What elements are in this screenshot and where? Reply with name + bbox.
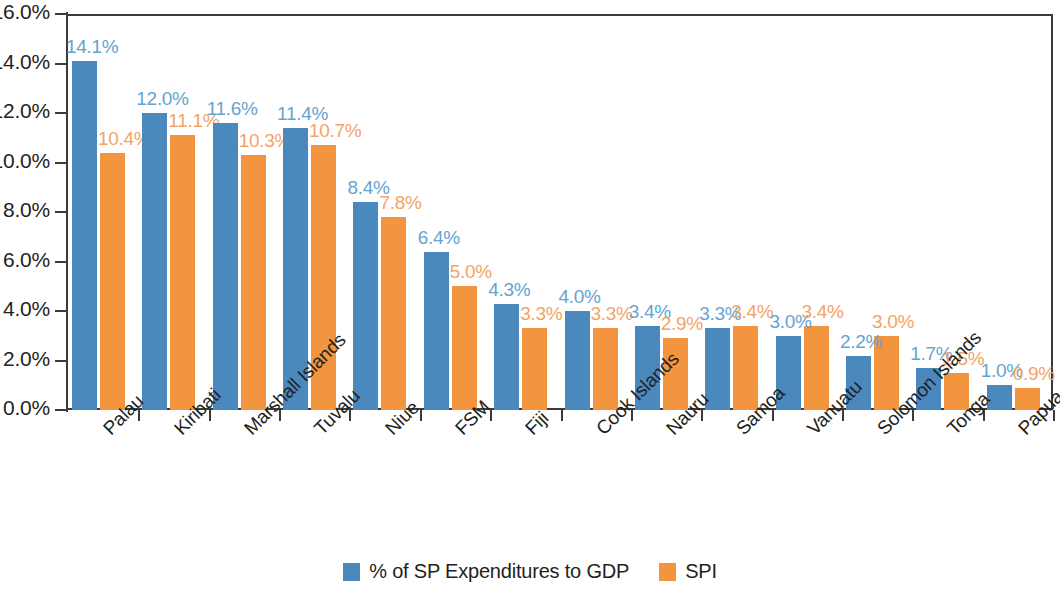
y-axis-tick-mark [55,310,66,312]
chart-legend: % of SP Expenditures to GDPSPI [0,560,1060,583]
data-label-sp-expenditures: 11.6% [207,98,258,120]
data-label-spi: 3.3% [520,303,562,325]
bar-sp-expenditures[interactable] [353,202,378,410]
x-axis-category-label: Samoa [732,424,748,440]
x-axis-category-label: Kiribati [170,424,186,440]
y-axis-tick-mark [55,162,66,164]
bar-spi[interactable] [804,326,829,410]
bar-sp-expenditures[interactable] [142,113,167,410]
bar-spi[interactable] [170,135,195,410]
data-label-sp-expenditures: 2.2% [840,331,882,353]
x-axis-category-label: Solomon Islands [873,424,889,440]
legend-item[interactable]: % of SP Expenditures to GDP [343,560,629,583]
data-label-spi: 5.0% [450,261,492,283]
bar-group: 11.6%10.3% [209,14,279,410]
data-label-spi: 3.4% [731,301,773,323]
x-axis-category-label: FSM [451,424,467,440]
legend-label: % of SP Expenditures to GDP [369,560,629,583]
legend-swatch-sp-expenditures [343,563,360,581]
y-axis-tick-label: 16.0% [0,0,50,24]
y-axis-tick-label: 10.0% [0,149,50,173]
bar-group: 3.0%3.4% [772,14,842,410]
bar-group: 4.0%3.3% [561,14,631,410]
data-label-sp-expenditures: 14.1% [66,36,118,58]
x-axis-tick-mark [561,410,563,421]
y-axis-tick-label: 0.0% [3,396,50,420]
y-axis-tick-mark [55,63,66,65]
bar-group: 2.2%3.0% [842,14,912,410]
x-axis-category-label: Tonga [943,424,959,440]
bar-sp-expenditures[interactable] [494,304,519,410]
bar-spi[interactable] [452,286,477,410]
x-axis-category-label: Cook Islands [592,424,608,440]
bar-group: 8.4%7.8% [349,14,419,410]
bar-sp-expenditures[interactable] [705,328,730,410]
bar-group: 3.3%3.4% [701,14,771,410]
y-axis-tick-mark [55,261,66,263]
x-axis-category-label: Nauru [662,424,678,440]
data-label-spi: 3.0% [872,311,914,333]
bar-spi[interactable] [100,153,125,410]
y-axis-tick-label: 12.0% [0,99,50,123]
y-axis-tick-label: 8.0% [3,198,50,222]
y-axis-tick-mark [55,112,66,114]
x-axis-category-label: Marshall Islands [240,424,256,440]
bar-sp-expenditures[interactable] [72,61,97,410]
data-label-spi: 3.4% [802,301,844,323]
grouped-bar-chart: 0.0%2.0%4.0%6.0%8.0%10.0%12.0%14.0%16.0%… [0,0,1060,596]
bar-group: 1.0%0.9% [983,14,1053,410]
bar-group: 14.1%10.4% [68,14,138,410]
data-label-spi: 7.8% [379,192,421,214]
y-axis-tick-mark [55,211,66,213]
bar-group: 4.3%3.3% [490,14,560,410]
bar-group: 6.4%5.0% [420,14,490,410]
x-axis-category-label: Papua New Guinea [1014,424,1030,440]
bar-sp-expenditures[interactable] [565,311,590,410]
data-label-spi: 0.9% [1013,363,1055,385]
bars-layer: 14.1%10.4%12.0%11.1%11.6%10.3%11.4%10.7%… [68,14,1053,410]
x-axis-category-label: Fiji [521,424,537,440]
x-axis-category-label: Vanuatu [803,424,819,440]
y-axis-tick-label: 2.0% [3,347,50,371]
data-label-sp-expenditures: 12.0% [136,88,188,110]
y-axis-tick-mark [55,409,66,411]
y-axis-tick-mark [55,13,66,15]
data-label-spi: 3.3% [591,303,633,325]
bar-spi[interactable] [522,328,547,410]
legend-item[interactable]: SPI [659,560,717,583]
data-label-sp-expenditures: 4.3% [488,279,530,301]
bar-sp-expenditures[interactable] [424,252,449,410]
legend-swatch-spi [659,563,676,581]
bar-spi[interactable] [381,217,406,410]
y-axis-tick-label: 14.0% [0,50,50,74]
x-axis-category-label: Tuvalu [310,424,326,440]
x-axis-category-label: Palau [99,424,115,440]
data-label-sp-expenditures: 6.4% [418,227,460,249]
bar-spi[interactable] [593,328,618,410]
bar-sp-expenditures[interactable] [213,123,238,410]
y-axis-tick-mark [55,360,66,362]
y-axis-tick-label: 4.0% [3,297,50,321]
bar-spi[interactable] [733,326,758,410]
data-label-spi: 2.9% [661,313,703,335]
bar-group: 12.0%11.1% [138,14,208,410]
y-axis-tick-label: 6.0% [3,248,50,272]
legend-label: SPI [685,560,717,583]
x-axis-category-label: Niue [381,424,397,440]
bar-spi[interactable] [241,155,266,410]
